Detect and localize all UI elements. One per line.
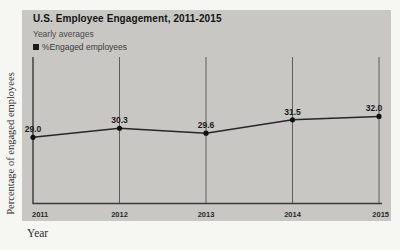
x-tick-label: 2015 (372, 210, 389, 219)
x-tick-label: 2011 (32, 210, 48, 219)
y-axis-title: Percentage of engaged employees (5, 65, 16, 223)
chart-subtitle: Yearly averages (33, 29, 94, 39)
data-point-marker (30, 135, 35, 140)
page-background: 29.030.329.631.532.020112012201320142015… (0, 0, 400, 250)
x-tick-label: 2014 (284, 210, 302, 219)
data-point-marker (376, 114, 381, 119)
legend-square-swatch-icon (33, 44, 39, 50)
data-point-marker (117, 126, 122, 131)
chart-legend: %Engaged employees (33, 42, 127, 52)
data-point-value-label: 32.0 (366, 103, 383, 113)
data-point-marker (203, 131, 208, 136)
x-tick-label: 2012 (111, 210, 128, 219)
data-point-value-label: 31.5 (284, 107, 301, 117)
chart-title: U.S. Employee Engagement, 2011-2015 (33, 13, 222, 24)
data-point-marker (290, 117, 295, 122)
data-point-value-label: 29.6 (198, 120, 215, 130)
chart-panel: 29.030.329.631.532.020112012201320142015… (22, 10, 391, 221)
data-point-value-label: 30.3 (111, 115, 128, 125)
x-tick-label: 2013 (198, 210, 215, 219)
x-axis-title: Year (27, 227, 48, 239)
legend-series-label: %Engaged employees (42, 42, 127, 52)
data-point-value-label: 29.0 (25, 124, 42, 134)
